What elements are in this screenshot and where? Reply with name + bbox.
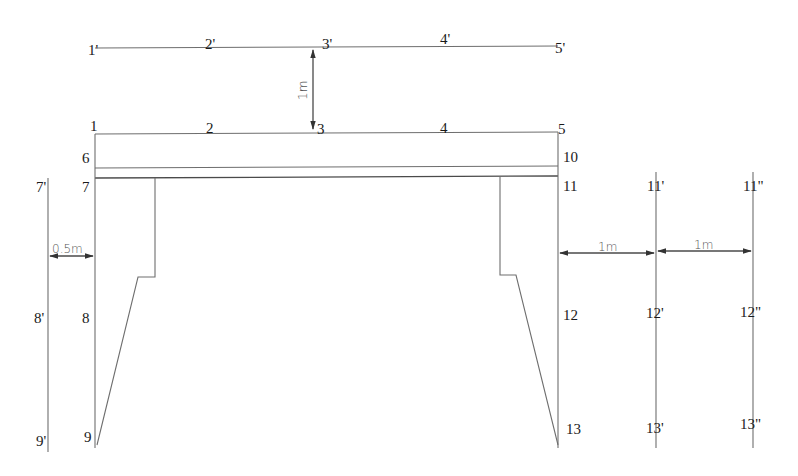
- right-dimension-label-1: 1m: [598, 240, 617, 254]
- label-7p: 7': [36, 179, 47, 195]
- label-11p: 11': [647, 178, 664, 194]
- label-6: 6: [82, 150, 90, 166]
- right-web: [500, 176, 558, 445]
- label-13p: 13': [646, 420, 664, 436]
- line-7-11: [95, 176, 558, 178]
- label-12p: 12': [646, 305, 664, 321]
- label-5p: 5': [555, 40, 566, 56]
- label-12: 12: [563, 307, 578, 323]
- label-10: 10: [563, 149, 578, 165]
- label-8p: 8': [34, 310, 45, 326]
- label-11pp: 11": [743, 178, 764, 194]
- vertical-dimension-label: 1m: [296, 81, 310, 100]
- label-9p: 9': [36, 433, 47, 449]
- line-6-10: [95, 166, 558, 168]
- label-1p: 1': [88, 42, 99, 58]
- label-8: 8: [82, 310, 90, 326]
- left-dimension-label: 0.5m: [52, 242, 83, 256]
- label-9: 9: [84, 429, 92, 445]
- cross-section-diagram: 1' 2' 3' 4' 5' 1m 1 2 3 4 5 6 7 8 9 10 1…: [0, 0, 798, 476]
- deck-top-line: [95, 132, 558, 134]
- label-13pp: 13": [740, 416, 761, 432]
- label-7: 7: [82, 179, 90, 195]
- right-dimension-label-2: 1m: [694, 238, 713, 252]
- label-4: 4: [440, 120, 448, 136]
- label-11: 11: [563, 178, 577, 194]
- label-13: 13: [566, 421, 581, 437]
- label-3: 3: [317, 121, 325, 137]
- label-2p: 2': [205, 36, 216, 52]
- label-3p: 3': [322, 36, 333, 52]
- label-2: 2: [206, 120, 214, 136]
- label-4p: 4': [440, 31, 451, 47]
- label-12pp: 12": [740, 304, 761, 320]
- label-1: 1: [90, 118, 98, 134]
- left-web: [97, 178, 155, 445]
- label-5: 5: [558, 121, 566, 137]
